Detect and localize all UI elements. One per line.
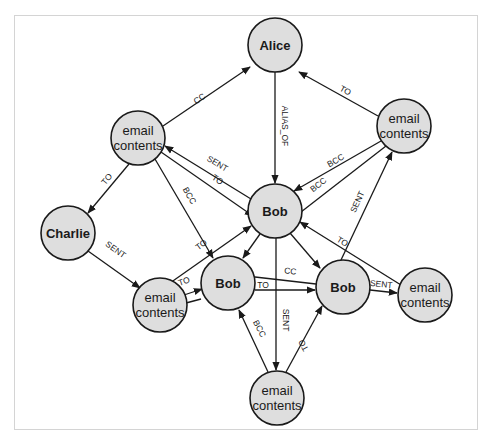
- node-label: Bob: [215, 276, 240, 291]
- node-bob-right[interactable]: Bob: [316, 260, 370, 314]
- edge-bob-right-sent-email-ur: [341, 152, 392, 260]
- node-label-line1: email: [261, 383, 292, 398]
- edge-bob-sent-email-ul: [165, 146, 251, 199]
- node-email-right[interactable]: email contents: [398, 268, 452, 322]
- edge-label-to: TO: [257, 280, 269, 290]
- edge-label-to: TO: [210, 172, 226, 187]
- edge-email-lm-bob-left-line: [186, 299, 201, 303]
- node-label-line2: contents: [135, 305, 185, 320]
- node-label-line1: email: [122, 123, 153, 138]
- node-email-left-middle[interactable]: email contents: [133, 278, 187, 332]
- node-label: Bob: [330, 280, 355, 295]
- node-label-line2: contents: [252, 398, 302, 413]
- edge-bob-to-bob-right: [290, 233, 320, 268]
- edge-label-bcc: BCC: [308, 175, 328, 194]
- edge-label-sent: SENT: [104, 239, 128, 260]
- node-email-bottom[interactable]: email contents: [250, 371, 304, 425]
- edge-bob-to-bob-left: [243, 234, 260, 258]
- node-label: Charlie: [46, 226, 90, 241]
- node-label: Bob: [262, 204, 287, 219]
- edge-label-sent: SENT: [281, 309, 291, 332]
- edge-charlie-sent-email-lm: [88, 251, 140, 288]
- edge-email-lm-to-bob-left: [184, 289, 202, 295]
- edge-label-to: TO: [194, 237, 210, 252]
- node-alice[interactable]: Alice: [248, 18, 302, 72]
- edge-email-ul-to-charlie: [88, 164, 129, 213]
- edge-label-sent: SENT: [370, 278, 394, 290]
- node-label-line1: email: [388, 111, 419, 126]
- node-label-line2: contents: [400, 295, 450, 310]
- edge-label-alias-of: ALIAS_OF: [280, 106, 290, 147]
- node-email-upper-left[interactable]: email contents: [111, 111, 165, 165]
- edge-label-bcc: BCC: [181, 185, 199, 206]
- node-label: Alice: [259, 38, 290, 53]
- node-label-line2: contents: [379, 126, 429, 141]
- node-email-upper-right[interactable]: email contents: [377, 99, 431, 153]
- graph-diagram: CC TO ALIAS_OF TO SENT TO BCC BCC BCC SE…: [0, 0, 490, 442]
- edge-label-cc: CC: [191, 91, 207, 106]
- node-charlie[interactable]: Charlie: [41, 206, 95, 260]
- node-label-line1: email: [144, 290, 175, 305]
- node-bob-left[interactable]: Bob: [201, 256, 255, 310]
- edge-email-ur-to-alice: [299, 72, 378, 116]
- edge-label-sent: SENT: [205, 153, 230, 173]
- edge-bob-right-sent-email-r: [370, 290, 397, 293]
- edge-label-cc: CC: [284, 265, 297, 276]
- edge-email-b-bcc-bob-left: [239, 310, 268, 372]
- node-bob-center[interactable]: Bob: [248, 184, 302, 238]
- node-label-line1: email: [409, 280, 440, 295]
- node-label-line2: contents: [113, 138, 163, 153]
- edge-label-bcc: BCC: [251, 318, 268, 339]
- edge-label-to: TO: [335, 234, 351, 249]
- edge-email-ul-to-alice: [163, 67, 250, 126]
